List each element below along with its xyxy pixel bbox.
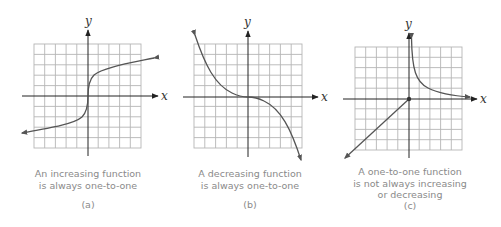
panel-b-caption: A decreasing function is always one-to-o… <box>175 168 325 191</box>
panel-b-caption-line-1: A decreasing function <box>175 168 325 180</box>
panel-a-x-label: x <box>161 89 168 103</box>
panel-b-sublabel: (b) <box>230 199 270 210</box>
panel-c-graph: x y <box>343 17 487 158</box>
panel-b-y-label: y <box>243 15 251 29</box>
panel-a-caption-line-2: is always one-to-one <box>13 180 163 192</box>
panel-c-caption-line-2: is not always increasing <box>335 178 485 190</box>
panel-b-graph: x y <box>183 15 328 160</box>
panel-a-sublabel: (a) <box>68 199 108 210</box>
panel-c-y-label: y <box>404 17 412 31</box>
panel-c-x-label: x <box>480 92 487 106</box>
panel-c-caption: A one-to-one function is not always incr… <box>335 166 485 201</box>
panel-a-graph: x y <box>22 14 168 156</box>
panel-c-caption-line-3: or decreasing <box>335 189 485 201</box>
panel-a-caption: An increasing function is always one-to-… <box>13 168 163 191</box>
panel-a-y-label: y <box>84 14 92 28</box>
panel-c-closed-dot <box>407 97 411 101</box>
panel-b-caption-line-2: is always one-to-one <box>175 180 325 192</box>
panel-c-caption-line-1: A one-to-one function <box>335 166 485 178</box>
panel-a-caption-line-1: An increasing function <box>13 168 163 180</box>
panel-b-x-label: x <box>321 90 328 104</box>
panel-c-sublabel: (c) <box>390 200 430 211</box>
